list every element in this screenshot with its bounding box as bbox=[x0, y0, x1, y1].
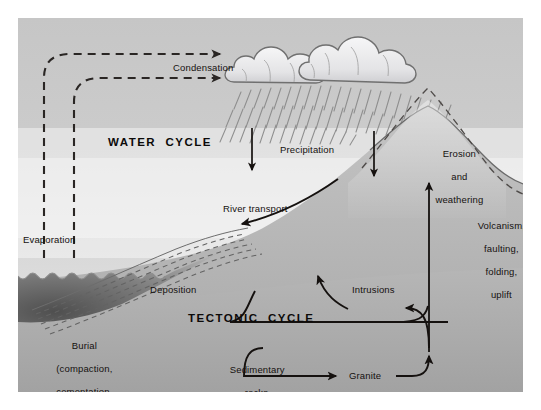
label-evaporation: Evaporation bbox=[23, 234, 75, 246]
volcanism-line-3: folding, bbox=[485, 266, 517, 277]
volcanism-line-1: Volcanism, bbox=[478, 220, 523, 231]
sedimentary-line-2: rocks bbox=[245, 387, 268, 393]
label-deposition: Deposition bbox=[150, 284, 196, 296]
burial-line-3: cementation, bbox=[56, 386, 112, 393]
label-intrusions: Intrusions bbox=[352, 284, 395, 296]
sedimentary-line-1: Sedimentary bbox=[230, 364, 285, 375]
label-sedimentary-rocks: Sedimentary rocks bbox=[213, 352, 283, 392]
label-burial: Burial (compaction, cementation, recryst… bbox=[20, 328, 132, 392]
label-condensation: Condensation bbox=[173, 62, 233, 74]
erosion-line-1: Erosion bbox=[443, 148, 476, 159]
volcanism-line-4: uplift bbox=[491, 289, 512, 300]
burial-line-1: Burial bbox=[72, 340, 97, 351]
label-erosion-weathering: Erosion and weathering bbox=[416, 136, 486, 217]
burial-line-2: (compaction, bbox=[56, 363, 112, 374]
label-tectonic-cycle: TECTONIC CYCLE bbox=[188, 312, 314, 324]
erosion-line-2: and bbox=[451, 171, 467, 182]
erosion-line-3: weathering bbox=[435, 194, 483, 205]
diagram-panel: Condensation WATER CYCLE Precipitation E… bbox=[18, 18, 523, 392]
label-river-transport: River transport bbox=[223, 203, 288, 215]
volcanism-line-2: faulting, bbox=[484, 243, 519, 254]
label-precipitation: Precipitation bbox=[280, 144, 334, 156]
label-water-cycle: WATER CYCLE bbox=[108, 136, 212, 148]
label-granite: Granite bbox=[349, 370, 381, 382]
diagram-canvas: Condensation WATER CYCLE Precipitation E… bbox=[0, 0, 541, 410]
label-volcanism: Volcanism, faulting, folding, uplift bbox=[458, 208, 523, 312]
